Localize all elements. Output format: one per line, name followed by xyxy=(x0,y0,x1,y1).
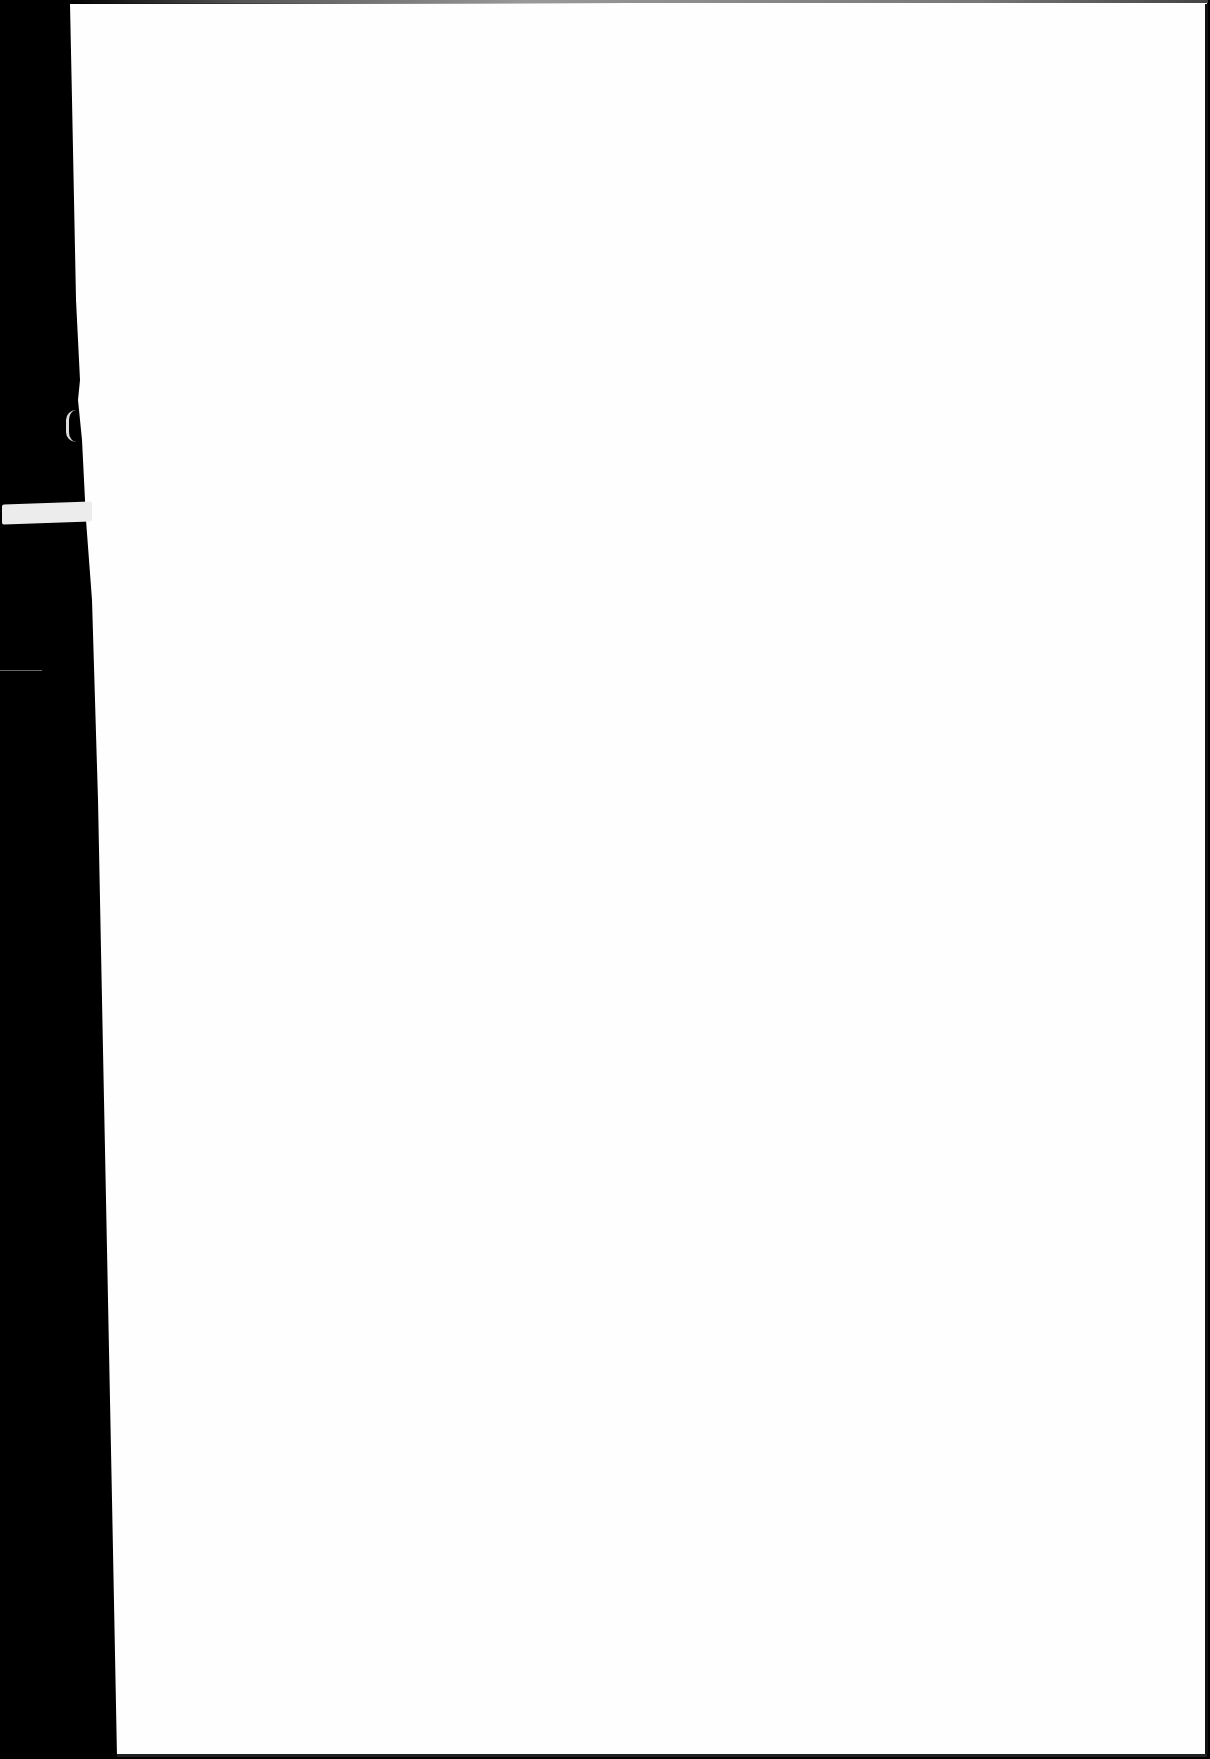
page-right-edge xyxy=(1205,4,1208,1754)
page-bottom-edge xyxy=(117,1754,1207,1757)
blank-page xyxy=(0,0,1210,1759)
scanned-document xyxy=(0,0,1210,1759)
page-top-edge xyxy=(70,0,1208,3)
torn-edge-curl xyxy=(66,410,79,442)
scan-artifact-line xyxy=(0,670,42,671)
tape-strip xyxy=(2,501,92,524)
